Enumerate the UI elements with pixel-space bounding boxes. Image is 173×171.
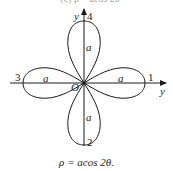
petal-number-left: 3 <box>15 72 21 83</box>
petal-length-label-top: a <box>86 42 92 53</box>
horizontal-axis-label: y <box>160 86 165 97</box>
petal-number-bottom: 2 <box>87 137 93 148</box>
petal-number-top: 4 <box>87 11 93 22</box>
petal-length-label-bottom: a <box>86 112 92 123</box>
vertical-axis-label: y <box>74 11 79 22</box>
petal-length-label-right: a <box>118 73 124 84</box>
petal-length-label-left: a <box>43 73 49 84</box>
origin-label: O <box>71 82 79 93</box>
origin-point <box>82 81 85 84</box>
petal-number-right: 1 <box>148 72 154 83</box>
figure-caption: ρ = acos 2θ. <box>0 156 173 168</box>
